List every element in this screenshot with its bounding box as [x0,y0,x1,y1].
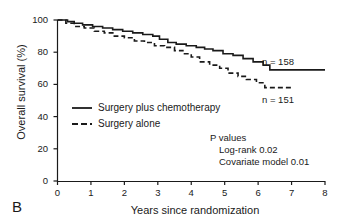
legend-label-surgery-alone: Surgery alone [98,118,160,129]
x-tick-label: 1 [76,187,106,198]
n-label-surgery-alone: n = 151 [262,94,294,105]
x-tick-label: 4 [176,187,206,198]
x-tick-label: 5 [210,187,240,198]
x-tick-label: 6 [243,187,273,198]
panel-label: B [12,198,22,215]
x-tick-label: 7 [277,187,307,198]
x-tick-label: 3 [143,187,173,198]
legend-label-surgery-plus-chemotherapy: Surgery plus chemotherapy [98,102,220,113]
y-axis-label: Overall survival (%) [15,17,27,167]
x-axis-label: Years since randomization [90,204,300,216]
survival-chart-figure: 020406080100 012345678 Overall survival … [0,0,340,224]
legend-swatches [72,108,92,124]
x-tick-label: 0 [43,187,73,198]
n-label-surgery-plus-chemotherapy: n = 158 [262,56,294,67]
series-group [58,20,326,88]
series-line-surgery-alone [58,20,292,88]
p-value-covariate-model: Covariate model 0.01 [219,156,309,167]
x-tick-label: 8 [310,187,340,198]
x-tick-label: 2 [109,187,139,198]
y-tick-label: 0 [14,175,48,186]
p-value-logrank: Log-rank 0.02 [219,144,278,155]
p-values-title: P values [210,132,246,143]
